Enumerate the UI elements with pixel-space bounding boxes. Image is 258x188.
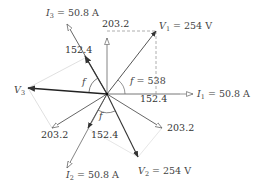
label-i2: I2 = 50.8 A xyxy=(65,169,119,182)
angle-arc-phi-v1 xyxy=(118,80,125,94)
label-phi-left: f xyxy=(81,76,87,87)
label-comp-lower-left: 203.2 xyxy=(41,129,68,140)
label-i3: I3 = 50.8 A xyxy=(45,7,99,20)
label-comp-right: 152.4 xyxy=(140,93,167,104)
label-v1: V1 = 254 V xyxy=(159,20,212,33)
angle-arc-phi-v3 xyxy=(89,78,98,92)
label-comp-i2: 152.4 xyxy=(91,129,118,140)
label-v2: V2 = 254 V xyxy=(138,165,191,178)
label-phi-angle: f = 538 xyxy=(129,75,166,86)
label-comp-lower-right: 203.2 xyxy=(167,122,194,133)
phasor-v3 xyxy=(28,88,107,94)
i2-component-arrow xyxy=(88,94,107,128)
label-v3: V3 xyxy=(14,84,25,97)
origin-point xyxy=(106,93,109,96)
label-comp-i3: 152.4 xyxy=(65,44,92,55)
label-phi-bottom: f xyxy=(98,110,104,121)
label-i1: I1 = 50.8 A xyxy=(196,88,250,101)
phasor-diagram: V1 = 254 V I3 = 50.8 A 203.2 152.4 f = 5… xyxy=(0,0,258,188)
i3-component-arrow xyxy=(85,56,107,94)
label-comp-top: 203.2 xyxy=(102,18,129,29)
